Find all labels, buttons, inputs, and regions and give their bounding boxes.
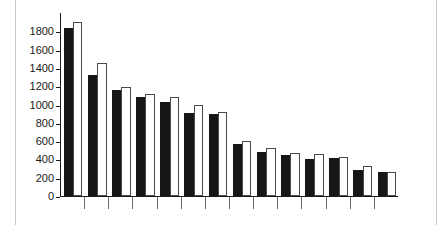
y-tick-label: 400 bbox=[36, 153, 54, 166]
bar-series1 bbox=[378, 172, 387, 196]
x-tick-mark bbox=[326, 197, 327, 209]
chart-figure: 020040060080010001200140016001800 bbox=[0, 0, 445, 225]
plot-area: 020040060080010001200140016001800 bbox=[60, 13, 398, 197]
y-tick-mark bbox=[56, 160, 60, 161]
bar-series2 bbox=[145, 94, 154, 196]
x-tick-mark bbox=[157, 197, 158, 209]
x-tick-mark bbox=[181, 197, 182, 209]
bar-series1 bbox=[305, 159, 314, 197]
y-tick-mark bbox=[56, 69, 60, 70]
bar-series1 bbox=[233, 144, 242, 196]
bar-series2 bbox=[121, 87, 130, 196]
bar-series1 bbox=[281, 155, 290, 196]
bar-series1 bbox=[209, 114, 218, 196]
bar-series1 bbox=[160, 102, 169, 196]
bar-series2 bbox=[170, 97, 179, 196]
x-tick-mark bbox=[301, 197, 302, 209]
bar-group bbox=[305, 13, 324, 196]
x-tick-mark bbox=[132, 197, 133, 209]
x-tick-mark bbox=[84, 197, 85, 209]
bar-group bbox=[88, 13, 107, 196]
y-tick-mark bbox=[56, 197, 60, 198]
bar-series2 bbox=[73, 22, 82, 196]
y-tick-label: 200 bbox=[36, 172, 54, 185]
x-tick-mark bbox=[350, 197, 351, 209]
y-tick-label: 1000 bbox=[30, 99, 54, 112]
bar-series-container bbox=[61, 13, 398, 196]
bar-group bbox=[257, 13, 276, 196]
y-tick-label: 1600 bbox=[30, 44, 54, 57]
x-tick-mark bbox=[108, 197, 109, 209]
bar-series2 bbox=[266, 148, 275, 196]
bar-group bbox=[64, 13, 83, 196]
bar-group bbox=[329, 13, 348, 196]
page-rule-left bbox=[15, 0, 16, 225]
y-tick-label: 1200 bbox=[30, 80, 54, 93]
x-tick-mark bbox=[277, 197, 278, 209]
y-tick-mark bbox=[56, 87, 60, 88]
y-tick-label: 1800 bbox=[30, 25, 54, 38]
bar-series1 bbox=[257, 152, 266, 196]
bar-series2 bbox=[339, 157, 348, 196]
y-tick-mark bbox=[56, 106, 60, 107]
x-tick-mark bbox=[229, 197, 230, 209]
x-tick-mark bbox=[253, 197, 254, 209]
bar-series1 bbox=[88, 75, 97, 196]
y-tick-mark bbox=[56, 32, 60, 33]
y-tick-label: 600 bbox=[36, 135, 54, 148]
y-tick-mark bbox=[56, 124, 60, 125]
bar-group bbox=[209, 13, 228, 196]
bar-group bbox=[136, 13, 155, 196]
bar-series1 bbox=[329, 158, 338, 196]
bar-group bbox=[184, 13, 203, 196]
bar-series2 bbox=[218, 112, 227, 196]
bar-series1 bbox=[112, 90, 121, 196]
bar-series2 bbox=[314, 154, 323, 196]
bar-series1 bbox=[136, 97, 145, 196]
bar-series1 bbox=[184, 113, 193, 196]
bar-series1 bbox=[64, 28, 73, 196]
bar-series2 bbox=[387, 172, 396, 196]
bar-group bbox=[160, 13, 179, 196]
page-rule-right bbox=[436, 0, 437, 225]
y-tick-mark bbox=[56, 142, 60, 143]
bar-series1 bbox=[353, 170, 362, 196]
bar-series2 bbox=[97, 63, 106, 196]
y-tick-label: 1400 bbox=[30, 62, 54, 75]
bar-series2 bbox=[363, 166, 372, 196]
bar-group bbox=[378, 13, 397, 196]
y-tick-mark bbox=[56, 51, 60, 52]
y-tick-label: 800 bbox=[36, 117, 54, 130]
bar-group bbox=[281, 13, 300, 196]
y-tick-label: 0 bbox=[48, 190, 54, 203]
bar-series2 bbox=[242, 141, 251, 196]
bar-group bbox=[112, 13, 131, 196]
x-tick-mark bbox=[205, 197, 206, 209]
bar-series2 bbox=[290, 153, 299, 196]
bar-group bbox=[353, 13, 372, 196]
y-tick-mark bbox=[56, 179, 60, 180]
bar-group bbox=[233, 13, 252, 196]
bar-series2 bbox=[194, 105, 203, 196]
x-tick-mark bbox=[374, 197, 375, 209]
